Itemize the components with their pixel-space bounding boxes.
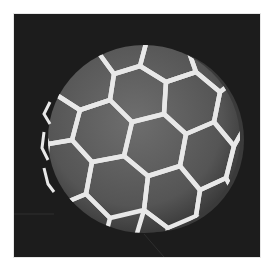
ball-illustration xyxy=(14,14,260,257)
ball-photo xyxy=(14,14,260,257)
